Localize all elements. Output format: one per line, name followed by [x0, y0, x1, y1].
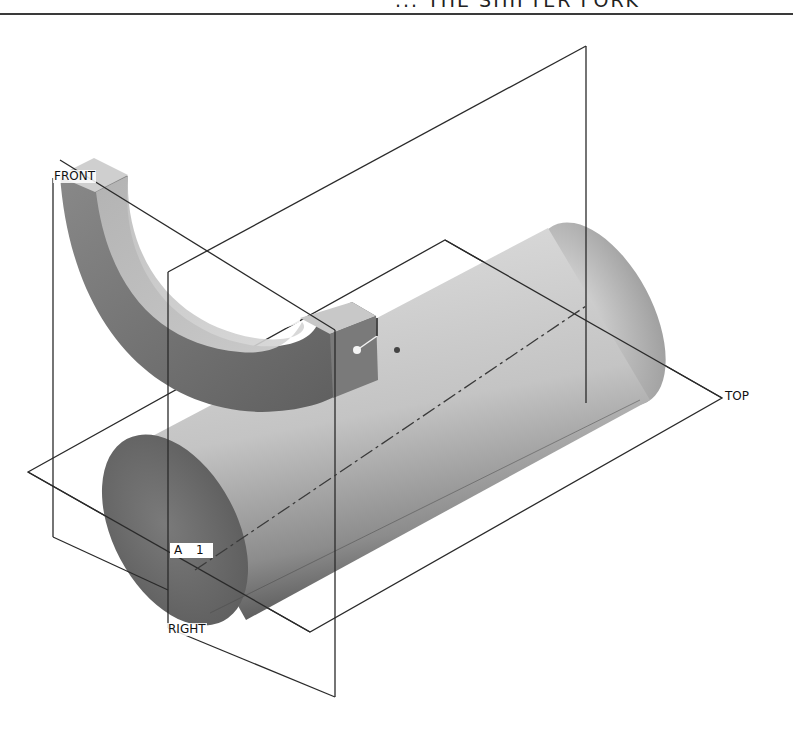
front-plane-label[interactable]: FRONT	[53, 170, 96, 183]
cad-viewport[interactable]	[0, 0, 793, 743]
right-plane-label[interactable]: RIGHT	[167, 623, 207, 636]
top-plane-label[interactable]: TOP	[724, 390, 750, 403]
axis-a1-label[interactable]: A 1	[170, 543, 213, 558]
shaft-cylinder[interactable]	[72, 201, 693, 650]
shifter-fork-half-ring[interactable]	[58, 158, 400, 412]
csys-origin-marker	[353, 346, 361, 354]
csys-point-marker	[394, 347, 400, 353]
